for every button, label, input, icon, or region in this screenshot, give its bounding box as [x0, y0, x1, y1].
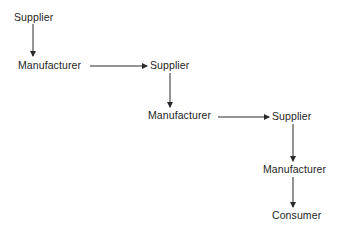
node-manufacturer-1: Manufacturer: [18, 60, 81, 71]
node-supplier-3: Supplier: [272, 111, 311, 122]
node-manufacturer-2: Manufacturer: [148, 110, 211, 121]
node-supplier-1: Supplier: [14, 12, 53, 23]
node-manufacturer-3: Manufacturer: [263, 164, 326, 175]
node-supplier-2: Supplier: [150, 60, 189, 71]
node-consumer: Consumer: [272, 210, 321, 221]
